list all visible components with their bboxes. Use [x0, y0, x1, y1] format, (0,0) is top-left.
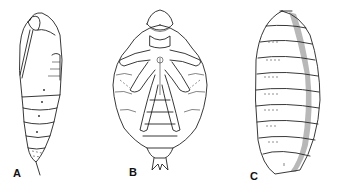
- pupae-figure: A B C: [0, 0, 338, 185]
- panel-c-drawing: [0, 0, 338, 185]
- coarctate-puparium: [255, 11, 320, 174]
- panel-label-a: A: [13, 167, 21, 179]
- panel-label-b: B: [129, 166, 137, 178]
- panel-label-c: C: [250, 170, 258, 182]
